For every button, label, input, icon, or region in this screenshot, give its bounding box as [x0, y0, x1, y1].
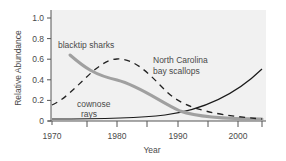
- y-tick-label: 0.6: [32, 54, 44, 64]
- x-ticks: [52, 121, 262, 127]
- y-tick-label: 0.8: [32, 34, 44, 44]
- label-scallops-line1: North Carolina: [153, 55, 208, 65]
- x-tick-label: 1970: [43, 131, 62, 141]
- x-axis-label: Year: [143, 145, 160, 155]
- x-tick-label: 1980: [108, 131, 127, 141]
- label-blacktip-sharks: blacktip sharks: [58, 40, 114, 50]
- y-tick-label: 0.2: [32, 95, 44, 105]
- x-tick-label: 2000: [229, 131, 248, 141]
- y-axis-label: Relative Abundance: [13, 30, 23, 106]
- y-tick-label: 0: [39, 116, 44, 126]
- x-tick-label: 1990: [169, 131, 188, 141]
- y-tick-label: 0.4: [32, 75, 44, 85]
- y-ticks: [47, 18, 51, 121]
- chart: 0 0.2 0.4 0.6 0.8 1.0 1970 1980 1990 200…: [0, 0, 286, 161]
- label-scallops-line2: bay scallops: [153, 66, 200, 76]
- label-rays-line2: rays: [81, 109, 97, 119]
- label-rays-line1: cownose: [77, 99, 111, 109]
- y-tick-label: 1.0: [32, 13, 44, 23]
